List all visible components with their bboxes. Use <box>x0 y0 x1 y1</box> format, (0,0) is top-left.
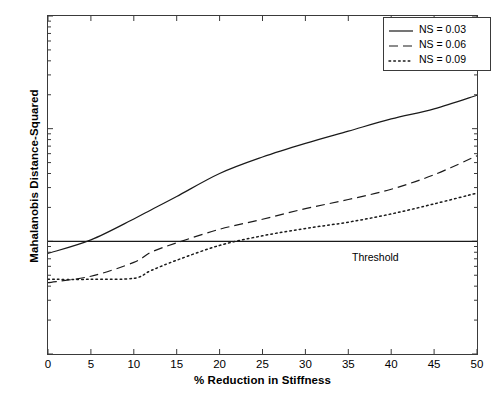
figure: Mahalanobis Distance-Squared % Reduction… <box>0 0 495 401</box>
x-tick-label-0: 0 <box>33 358 63 370</box>
x-tick-label-20: 20 <box>205 358 235 370</box>
x-tick-label-45: 45 <box>419 358 449 370</box>
x-tick-label-35: 35 <box>333 358 363 370</box>
legend-label-0: NS = 0.03 <box>419 23 466 35</box>
series-line-2 <box>48 193 477 279</box>
legend-swatch-dashed <box>388 38 414 50</box>
legend-label-2: NS = 0.09 <box>419 53 466 65</box>
x-tick-label-5: 5 <box>76 358 106 370</box>
x-tick-label-25: 25 <box>248 358 278 370</box>
series-line-1 <box>48 156 477 283</box>
x-tick-label-15: 15 <box>162 358 192 370</box>
legend-swatch-dotted <box>388 53 414 65</box>
legend-label-1: NS = 0.06 <box>419 38 466 50</box>
x-tick-label-10: 10 <box>119 358 149 370</box>
series-line-0 <box>48 95 477 253</box>
x-tick-label-30: 30 <box>290 358 320 370</box>
y-axis-title: Mahalanobis Distance-Squared <box>28 46 40 306</box>
legend-item-0: NS = 0.03 <box>388 21 486 36</box>
legend-item-1: NS = 0.06 <box>388 36 486 51</box>
x-tick-label-50: 50 <box>462 358 492 370</box>
legend-item-2: NS = 0.09 <box>388 51 486 66</box>
threshold-label: Threshold <box>352 251 399 263</box>
x-axis-title: % Reduction in Stiffness <box>47 374 478 386</box>
legend-swatch-solid <box>388 23 414 35</box>
x-tick-label-40: 40 <box>376 358 406 370</box>
chart-legend: NS = 0.03NS = 0.06NS = 0.09 <box>383 17 491 71</box>
